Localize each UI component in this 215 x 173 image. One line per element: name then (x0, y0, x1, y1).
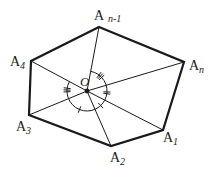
tick-mark-1-1 (103, 93, 110, 94)
label-A-1-subscript: 1 (173, 136, 178, 147)
label-A-1: A 1 (163, 130, 178, 147)
label-A-n-subscript: n (199, 64, 204, 75)
spoke-O-A_4 (31, 61, 87, 91)
label-A-2: A 2 (110, 150, 125, 167)
label-A-n: A n (189, 58, 204, 75)
label-A-4-subscript: 4 (20, 60, 25, 71)
spoke-O-A_1 (87, 91, 163, 130)
label-O: O (80, 74, 90, 89)
polygon-diagram: O A n-1 A n A 1 A 2 A 3 A 4 (0, 0, 215, 173)
label-A-2-subscript: 2 (120, 156, 125, 167)
center-point-O (85, 89, 90, 94)
label-A-3: A 3 (16, 119, 31, 136)
label-A-n-1-letter: A (94, 8, 105, 23)
label-A-4: A 4 (10, 54, 25, 71)
diagram-canvas: O A n-1 A n A 1 A 2 A 3 A 4 (0, 0, 215, 173)
label-A-3-subscript: 3 (25, 125, 31, 136)
label-A-n-1: A n-1 (94, 8, 121, 24)
tick-mark-4-2 (64, 88, 71, 89)
label-A-n-1-subscript: n-1 (108, 13, 121, 24)
